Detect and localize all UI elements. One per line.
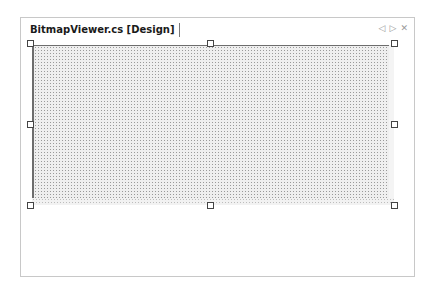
tab-bitmapviewer-design[interactable]: BitmapViewer.cs [Design] [30,23,180,37]
resize-handle-middle-left[interactable] [27,121,34,128]
design-surface [29,42,394,206]
scroll-tabs-right-icon[interactable]: ▷ [390,21,397,35]
resize-handle-bottom-right[interactable] [391,202,398,209]
resize-handle-top-left[interactable] [27,40,34,47]
resize-handle-top-right[interactable] [391,40,398,47]
resize-handle-middle-right[interactable] [391,121,398,128]
close-tab-icon[interactable]: ✕ [400,21,408,35]
form-canvas[interactable] [32,45,394,201]
resize-handle-bottom-center[interactable] [207,202,214,209]
resize-handle-top-center[interactable] [207,40,214,47]
resize-handle-bottom-left[interactable] [27,202,34,209]
scroll-tabs-left-icon[interactable]: ◁ [379,21,386,35]
tab-controls: ◁ ▷ ✕ [379,21,408,35]
